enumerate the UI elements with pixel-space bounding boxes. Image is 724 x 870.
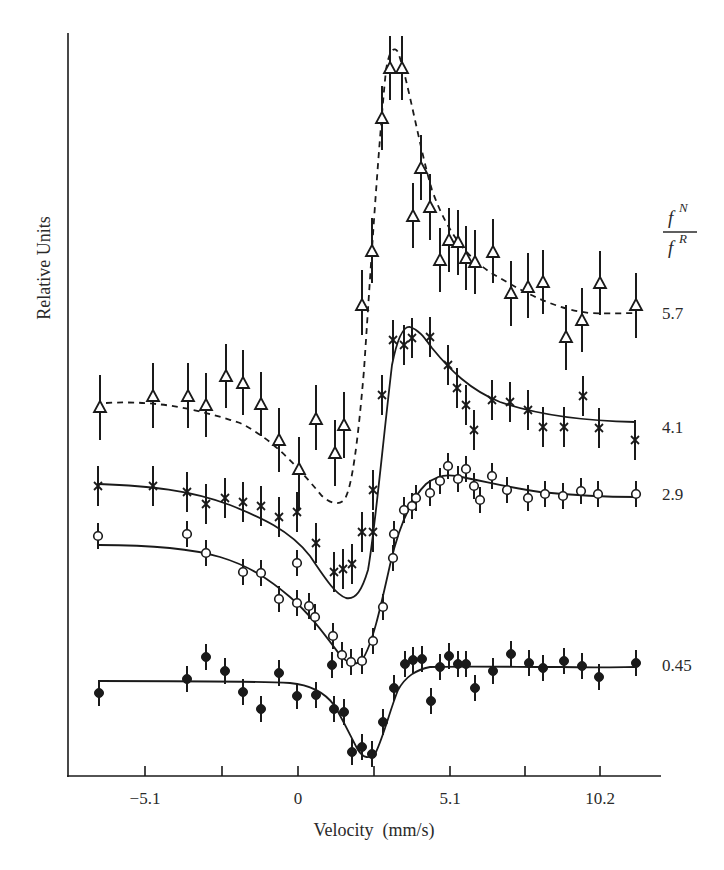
open-circle-marker: [358, 657, 367, 666]
open-circle-marker: [594, 490, 603, 499]
open-circle-marker: [94, 532, 103, 541]
open-circle-marker: [488, 472, 497, 481]
x-axis-label: Velocity (mm/s): [314, 820, 435, 841]
triangle-marker: [594, 277, 606, 288]
open-circle-marker: [293, 599, 302, 608]
legend-denominator-sup: R: [678, 231, 687, 246]
open-circle-marker: [524, 494, 533, 503]
open-circle-marker: [390, 530, 399, 539]
filled-circle-marker: [368, 750, 377, 759]
filled-circle-marker: [275, 669, 284, 678]
triangle-marker: [522, 281, 534, 292]
triangle-marker: [255, 398, 267, 409]
triangle-marker: [329, 447, 341, 458]
series-label-4.1: 4.1: [662, 418, 683, 437]
series-label-5.7: 5.7: [662, 304, 684, 323]
filled-circle-marker: [340, 708, 349, 717]
open-circle-marker: [426, 489, 435, 498]
triangle-marker: [630, 299, 642, 310]
triangle-marker: [94, 401, 106, 412]
triangle-marker: [273, 434, 285, 445]
filled-circle-marker: [436, 663, 445, 672]
filled-circle-marker: [471, 684, 480, 693]
open-circle-marker: [275, 595, 284, 604]
filled-circle-marker: [95, 689, 104, 698]
series-label-0.45: 0.45: [662, 656, 692, 675]
triangle-marker: [396, 62, 408, 73]
filled-circle-marker: [390, 684, 399, 693]
open-circle-marker: [311, 613, 320, 622]
filled-circle-marker: [409, 656, 418, 665]
series-label-2.9: 2.9: [662, 485, 683, 504]
x-tick-label: 10.2: [585, 789, 615, 808]
filled-circle-marker: [379, 718, 388, 727]
open-circle-marker: [202, 549, 211, 558]
filled-circle-marker: [348, 748, 357, 757]
triangle-marker: [434, 254, 446, 265]
open-circle-marker: [257, 569, 266, 578]
filled-circle-marker: [539, 664, 548, 673]
open-circle-marker: [476, 496, 485, 505]
open-circle-marker: [412, 494, 421, 503]
legend-title-fraction: f N f R: [663, 200, 697, 258]
filled-circle-marker: [560, 657, 569, 666]
filled-circle-marker: [202, 653, 211, 662]
axes: −5.1 0 5.1 10.2 Velocity (mm/s) Relative…: [34, 33, 661, 841]
filled-circle-marker: [239, 688, 248, 697]
open-circle-marker: [305, 602, 314, 611]
open-circle-marker: [338, 651, 347, 660]
open-circle-marker: [183, 530, 192, 539]
mossbauer-chart: −5.1 0 5.1 10.2 Velocity (mm/s) Relative…: [0, 0, 724, 870]
open-circle-marker: [436, 477, 445, 486]
filled-circle-marker: [312, 691, 321, 700]
filled-circle-marker: [445, 652, 454, 661]
y-axis-label: Relative Units: [34, 216, 54, 319]
open-circle-marker: [454, 475, 463, 484]
open-circle-marker: [470, 482, 479, 491]
filled-circle-marker: [427, 697, 436, 706]
triangle-marker: [338, 419, 350, 430]
triangle-marker: [310, 413, 322, 424]
filled-circle-marker: [293, 692, 302, 701]
triangle-marker: [424, 201, 436, 212]
open-circle-marker: [329, 632, 338, 641]
filled-circle-marker: [525, 659, 534, 668]
x-tick-label: −5.1: [130, 789, 161, 808]
triangle-marker: [200, 399, 212, 410]
series-2.9-open-circles: [94, 462, 641, 667]
filled-circle-marker: [632, 659, 641, 668]
error-bars: [98, 36, 636, 767]
triangle-marker: [505, 287, 517, 298]
series-5.7-triangles: [94, 62, 642, 474]
triangle-marker: [237, 377, 249, 388]
fit-curves: [99, 49, 637, 757]
triangle-marker: [182, 390, 194, 401]
filled-circle-marker: [257, 705, 266, 714]
open-circle-marker: [462, 465, 471, 474]
triangle-marker: [537, 276, 549, 287]
filled-circle-marker: [595, 673, 604, 682]
filled-circle-marker: [328, 661, 337, 670]
x-tick-label: 0: [294, 789, 303, 808]
legend: f N f R 5.7 4.1 2.9 0.45: [662, 200, 697, 675]
open-circle-marker: [444, 462, 453, 471]
filled-circle-marker: [418, 655, 427, 664]
filled-circle-marker: [330, 705, 339, 714]
filled-circle-marker: [358, 743, 367, 752]
filled-circle-marker: [462, 660, 471, 669]
triangle-marker: [460, 252, 472, 263]
triangle-marker: [576, 314, 588, 325]
series-0.45-filled-circles: [95, 650, 641, 759]
x-axis-ticks: [145, 766, 600, 776]
open-circle-marker: [239, 568, 248, 577]
open-circle-marker: [541, 490, 550, 499]
open-circle-marker: [369, 637, 378, 646]
open-circle-marker: [347, 658, 356, 667]
filled-circle-marker: [221, 667, 230, 676]
triangle-marker: [487, 246, 499, 257]
triangle-marker: [560, 331, 572, 342]
legend-numerator: f: [668, 207, 676, 228]
filled-circle-marker: [507, 650, 516, 659]
triangle-marker: [376, 112, 388, 123]
triangle-marker: [147, 390, 159, 401]
